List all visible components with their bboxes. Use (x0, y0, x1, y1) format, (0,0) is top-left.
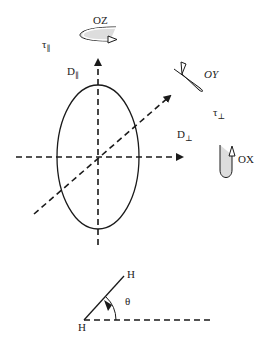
h-top-label: H (127, 268, 135, 280)
oz-rotation-icon (80, 27, 117, 43)
tau-perp-label: τ⊥ (213, 106, 225, 121)
oy-label: OY (204, 68, 220, 80)
h-h-bond (84, 276, 124, 320)
diagonal-axis (34, 96, 170, 214)
ox-label: OX (238, 153, 254, 165)
d-perp-label: D⊥ (177, 128, 192, 143)
theta-label: θ (125, 295, 130, 307)
tau-parallel-label: τ∥ (42, 38, 50, 53)
ox-rotation-icon (220, 145, 235, 178)
d-parallel-label: D∥ (67, 65, 79, 80)
h-bottom-label: H (78, 321, 86, 333)
theta-arrow-icon (104, 300, 112, 311)
ellipsoid-diagram: OZ τ∥ D∥ OY τ⊥ D⊥ OX H H θ (0, 0, 263, 346)
oz-label: OZ (93, 14, 108, 26)
oy-rotation-icon (174, 62, 203, 91)
